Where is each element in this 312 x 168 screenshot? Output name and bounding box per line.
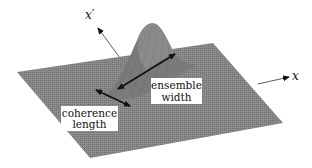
svg-text:ensemble: ensemble — [151, 79, 202, 91]
coherence-length-label: coherence length — [61, 106, 118, 131]
ensemble-width-label: ensemble width — [151, 78, 202, 104]
svg-text:width: width — [161, 91, 191, 103]
x-prime-label: x′ — [85, 8, 95, 22]
x-prime-axis — [98, 28, 120, 58]
gaussian-diagram: x′ x ensemble width coherence length — [0, 0, 312, 168]
x-axis — [258, 77, 289, 84]
svg-text:length: length — [72, 118, 106, 130]
x-label: x — [292, 69, 299, 83]
